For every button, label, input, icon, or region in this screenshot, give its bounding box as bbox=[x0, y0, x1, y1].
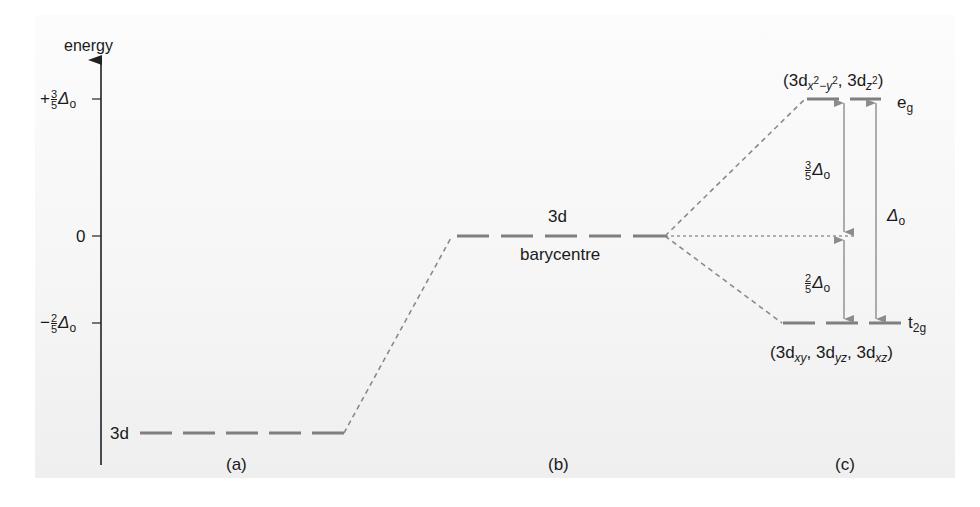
connector-to-eg bbox=[665, 99, 805, 236]
barycentre-label: barycentre bbox=[520, 246, 600, 263]
t2g-orbitals-label: (3dxy, 3dyz, 3dxz) bbox=[770, 344, 893, 361]
delta-symbol: Δ bbox=[58, 89, 69, 108]
gap-label-three-fifths: 35Δo bbox=[804, 160, 830, 181]
panel-label-c: (c) bbox=[835, 456, 855, 473]
gap-label-two-fifths: 25Δo bbox=[804, 273, 830, 294]
level-label-3d-free-ion: 3d bbox=[110, 425, 129, 442]
delta-symbol: Δ bbox=[58, 313, 69, 332]
panel-label-b: (b) bbox=[548, 456, 569, 473]
eg-orbitals-label: (3dx2−y2, 3dz2) bbox=[783, 72, 883, 89]
connector-to-t2g bbox=[665, 236, 782, 323]
energy-axis bbox=[92, 60, 101, 465]
tick-label-zero: 0 bbox=[76, 228, 85, 245]
eg-label: eg bbox=[897, 94, 913, 111]
panel-label-a: (a) bbox=[226, 456, 247, 473]
tick-label-plus-three-fifths: +35Δo bbox=[40, 89, 76, 110]
gap-label-total: Δo bbox=[887, 207, 905, 224]
connector-a-to-b bbox=[344, 236, 452, 433]
sign: + bbox=[40, 89, 50, 108]
fraction: 35 bbox=[51, 89, 57, 110]
fraction: 25 bbox=[51, 313, 57, 334]
t2g-label: t2g bbox=[908, 314, 926, 331]
axis-label-energy: energy bbox=[64, 38, 113, 54]
level-label-3d-barycentre: 3d bbox=[548, 208, 567, 225]
tick-label-minus-two-fifths: −25Δo bbox=[40, 313, 76, 334]
